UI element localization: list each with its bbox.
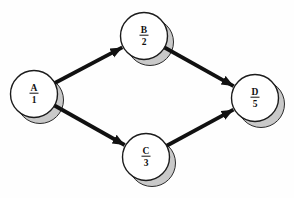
node-d-value: 5 [253,99,258,109]
node-d: D5 [232,75,279,122]
node-c-value: 3 [144,158,149,168]
node-b-letter: B [141,25,148,35]
diagram-canvas: A1B2C3D5 [0,0,294,198]
node-a-value: 1 [32,95,37,105]
node-b-value: 2 [142,37,147,47]
node-c-letter: C [143,146,150,156]
edge-b-to-d-arrow [164,47,234,86]
network-diagram: A1B2C3D5 [0,0,294,198]
nodes-layer: A1B2C3D5 [11,13,279,181]
node-c: C3 [123,134,170,181]
edge-a-to-b-arrow [54,47,122,83]
node-a: A1 [11,71,58,118]
edge-a-to-c-arrow [54,105,125,145]
node-a-letter: A [31,83,38,93]
node-d-letter: D [252,87,259,97]
edge-c-to-d-arrow [166,110,234,147]
node-b: B2 [121,13,168,60]
